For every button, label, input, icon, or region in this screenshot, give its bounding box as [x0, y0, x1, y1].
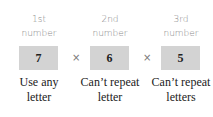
column-3-note-line2: letters — [145, 90, 213, 105]
column-1-header-line1: 1st — [3, 13, 75, 26]
column-3-header-line1: 3rd — [145, 13, 213, 26]
column-1-note-line1: Use any — [3, 75, 75, 90]
column-1-note-line2: letter — [3, 90, 75, 105]
column-3-header-line2: number — [145, 27, 213, 40]
column-3-note-line1: Can’t repeat — [145, 75, 213, 90]
multiply-sign-2: × — [143, 51, 151, 65]
column-1-value-box: 7 — [19, 46, 58, 70]
column-3-value-box: 5 — [161, 46, 200, 70]
column-3-note: Can’t repeat letters — [145, 75, 213, 105]
column-2-note-line2: letter — [74, 90, 146, 105]
column-1-header-line2: number — [3, 27, 75, 40]
column-2-value-box: 6 — [90, 46, 129, 70]
column-1-note: Use any letter — [3, 75, 75, 105]
multiply-sign-1: × — [72, 51, 80, 65]
column-2-header-line2: number — [74, 27, 146, 40]
column-2-note: Can’t repeat letter — [74, 75, 146, 105]
column-2-note-line1: Can’t repeat — [74, 75, 146, 90]
column-2-header-line1: 2nd — [74, 13, 146, 26]
